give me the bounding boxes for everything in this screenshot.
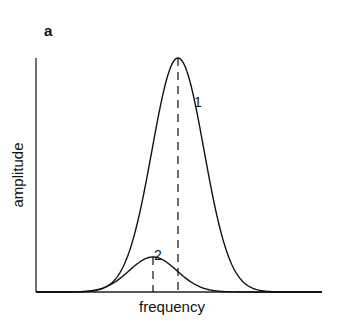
y-axis-label: amplitude xyxy=(9,142,26,207)
curve-1-label: 1 xyxy=(194,94,202,110)
curve-2-label: 2 xyxy=(154,247,162,263)
panel-label: a xyxy=(44,22,53,39)
curve-1 xyxy=(36,58,322,292)
x-axis-label: frequency xyxy=(139,298,205,315)
curve-2 xyxy=(36,257,322,292)
chart: a amplitude frequency 1 2 xyxy=(0,0,338,329)
